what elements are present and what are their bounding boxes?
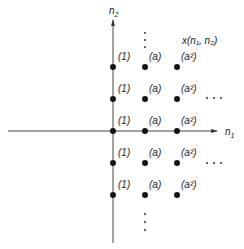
sample-point	[174, 192, 180, 198]
sample-value: (1)	[118, 83, 130, 94]
sample-point	[110, 96, 116, 102]
lattice-row: (1) (a) (a²)	[110, 51, 197, 70]
sample-point	[110, 64, 116, 70]
vertical-ellipsis-top	[144, 32, 146, 48]
horizontal-ellipsis	[206, 97, 222, 99]
function-label: x(n₁, n₂)	[181, 35, 217, 46]
lattice-row: (1) (a) (a²)	[110, 147, 222, 166]
lattice-row: (1) (a) (a²)	[110, 83, 222, 102]
sample-point	[142, 128, 148, 134]
sample-value: (1)	[118, 51, 130, 62]
sample-value: (a)	[149, 51, 161, 62]
sample-point	[110, 128, 116, 134]
sample-point	[174, 64, 180, 70]
sample-point	[142, 96, 148, 102]
sample-point	[142, 192, 148, 198]
sample-value: (1)	[118, 115, 130, 126]
sample-value: (a²)	[181, 147, 197, 158]
sample-point	[174, 160, 180, 166]
sample-value: (a²)	[181, 179, 197, 190]
sample-value: (a)	[149, 179, 161, 190]
sample-value: (a²)	[181, 83, 197, 94]
sample-value: (a)	[149, 83, 161, 94]
sample-value: (a²)	[181, 115, 197, 126]
lattice-row: (1) (a) (a²)	[110, 179, 197, 198]
sample-point	[110, 192, 116, 198]
sample-point	[174, 128, 180, 134]
sample-value: (1)	[118, 147, 130, 158]
sample-value: (a)	[149, 147, 161, 158]
sample-value: (1)	[118, 179, 130, 190]
sample-point	[174, 96, 180, 102]
sample-point	[110, 160, 116, 166]
sample-point	[142, 64, 148, 70]
sample-point	[142, 160, 148, 166]
sample-value: (a²)	[181, 51, 197, 62]
n2-axis-label: n2	[109, 5, 119, 18]
vertical-ellipsis-bottom	[144, 213, 146, 231]
sample-value: (a)	[149, 115, 161, 126]
separable-sequence-diagram: n1 n2 x(n₁, n₂) (1) (a) (a²)	[0, 0, 244, 249]
lattice-plot: n1 n2 x(n₁, n₂) (1) (a) (a²)	[0, 0, 244, 249]
n1-axis-label: n1	[225, 126, 235, 139]
horizontal-ellipsis	[206, 162, 222, 164]
